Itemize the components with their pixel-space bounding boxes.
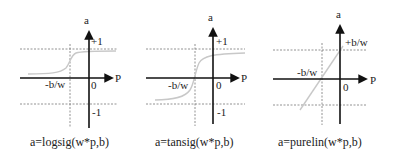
purelin-caption: a=purelin(w*p,b): [278, 135, 362, 149]
shift-label: -b/w: [297, 66, 317, 78]
purelin-panel: a P 0 +b/w -b/w a=purelin(w*p,b): [273, 8, 376, 149]
upper-label: +b/w: [345, 36, 368, 48]
logsig-curve: [28, 51, 116, 74]
lower-label: -1: [92, 106, 101, 118]
tansig-curve: [155, 53, 245, 100]
logsig-panel: a P 0 +1 -1 -b/w a=logsig(w*p,b): [20, 14, 121, 149]
shift-label: -b/w: [168, 79, 188, 91]
y-axis-label: a: [208, 11, 213, 23]
origin-label: 0: [91, 79, 97, 91]
x-axis-label: P: [370, 74, 376, 86]
shift-label: -b/w: [45, 78, 65, 90]
transfer-functions-diagram: a P 0 +1 -1 -b/w a=logsig(w*p,b) a P 0 +…: [0, 0, 395, 160]
lower-label: -1: [217, 106, 226, 118]
purelin-line: [300, 46, 343, 110]
y-axis-label: a: [336, 8, 341, 20]
x-axis-label: P: [115, 72, 121, 84]
origin-label: 0: [216, 79, 222, 91]
x-axis-label: P: [241, 72, 247, 84]
tansig-panel: a P 0 +1 -1 -b/w a=tansig(w*p,b): [146, 11, 247, 149]
upper-label: +1: [91, 35, 103, 47]
origin-label: 0: [343, 81, 349, 93]
upper-label: +1: [216, 35, 228, 47]
tansig-caption: a=tansig(w*p,b): [155, 135, 233, 149]
y-axis-label: a: [84, 14, 89, 26]
logsig-caption: a=logsig(w*p,b): [30, 135, 109, 149]
